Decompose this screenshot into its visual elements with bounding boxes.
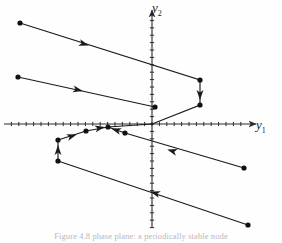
data-point	[105, 124, 110, 129]
data-point	[197, 77, 202, 82]
y-axis-label-subscript: 2	[158, 9, 162, 18]
figure-container: y2 y1 Figure 4.8 phase plane: a periodic…	[0, 0, 282, 243]
trajectory-orbit-5	[108, 127, 244, 168]
data-point	[152, 104, 157, 109]
x-axis-label: y1	[256, 117, 266, 135]
y-axis-label: y2	[152, 0, 162, 18]
trajectory-orbit-2	[18, 77, 155, 107]
direction-arrow	[72, 86, 83, 95]
axes	[4, 10, 256, 228]
data-point	[17, 20, 22, 25]
figure-caption: Figure 4.8 phase plane: a periodically s…	[0, 231, 282, 243]
x-axis-label-subscript: 1	[262, 126, 266, 135]
data-point	[15, 74, 20, 79]
data-point	[197, 102, 202, 107]
direction-arrow	[66, 131, 78, 141]
direction-arrow	[149, 188, 161, 198]
trajectory-orbit-1	[20, 23, 200, 124]
data-point	[55, 137, 60, 142]
data-point	[122, 130, 127, 135]
data-point	[55, 158, 60, 163]
data-point	[245, 222, 250, 227]
data-point	[241, 165, 246, 170]
phase-plane-plot	[0, 0, 282, 243]
data-point	[83, 128, 88, 133]
